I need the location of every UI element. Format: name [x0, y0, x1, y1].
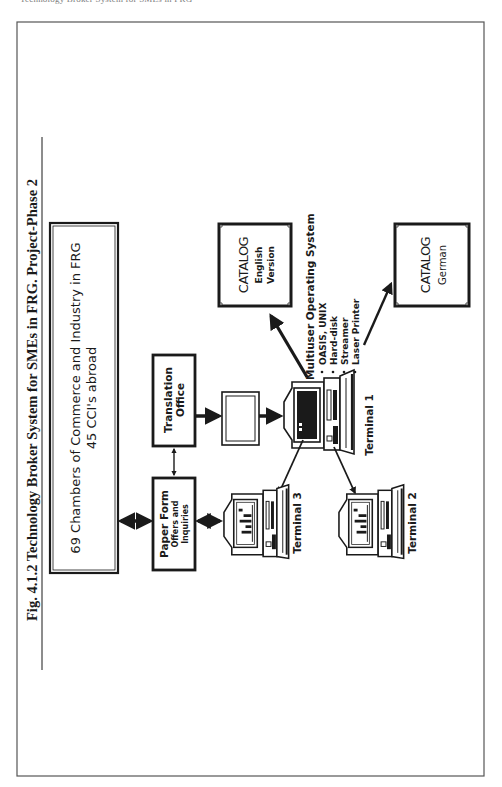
monitor-box — [222, 392, 259, 445]
computer-icon — [224, 485, 289, 559]
link-terminal1-terminal3 — [279, 440, 303, 493]
system-spec: Multiuser Operating System OASIS, UNIX H… — [304, 213, 361, 380]
catalog-english-line2: English — [254, 247, 264, 284]
bullet-icon — [343, 371, 346, 374]
paper-form-line2: Offers and — [171, 500, 180, 547]
bullet-icon — [332, 371, 335, 374]
catalog-german-box: CATALOG German — [395, 224, 469, 306]
terminal-3: Terminal 3 — [224, 485, 303, 559]
arrow-terminal1-catalog-english — [271, 316, 307, 377]
translation-line2: Office — [174, 383, 186, 417]
terminal-3-label: Terminal 3 — [291, 492, 303, 554]
terminal-2: Terminal 2 — [339, 485, 418, 559]
translation-line1: Translation — [162, 367, 174, 433]
translation-office-box: Translation Office — [153, 355, 195, 446]
computer-icon — [339, 485, 404, 559]
figure-title: Fig. 4.1.2 Technology Broker System for … — [24, 179, 40, 621]
catalog-german-title: CATALOG — [418, 237, 433, 293]
system-spec-item-2: Hard-disk — [329, 315, 339, 365]
terminal-1: Terminal 1 — [284, 370, 375, 456]
arrow-terminal1-catalog-german — [364, 284, 391, 345]
bullet-icon — [321, 371, 324, 374]
bullet-icon — [354, 371, 357, 374]
paper-form-box: Paper Form Offers and Inquiries — [153, 478, 195, 570]
terminal-1-label: Terminal 1 — [363, 394, 375, 456]
chambers-line2: 45 CCI's abroad — [84, 347, 99, 450]
system-spec-item-4: Laser Printer — [351, 298, 361, 365]
system-spec-heading: Multiuser Operating System — [304, 213, 316, 380]
paper-form-line1: Paper Form — [158, 490, 170, 558]
catalog-english-title: CATALOG — [236, 237, 251, 293]
chambers-box: 69 Chambers of Commerce and Industry in … — [50, 223, 118, 573]
chambers-line1: 69 Chambers of Commerce and Industry in … — [68, 242, 83, 553]
terminal-2-label: Terminal 2 — [406, 492, 418, 554]
system-spec-item-1: OASIS, UNIX — [318, 303, 328, 365]
figure-diagram: Fig. 4.1.2 Technology Broker System for … — [0, 0, 502, 787]
computer-icon — [284, 370, 354, 454]
catalog-english-line3: Version — [266, 246, 276, 284]
catalog-german-line2: German — [437, 245, 448, 285]
paper-form-line3: Inquiries — [181, 504, 190, 544]
system-spec-item-3: Streamer — [340, 317, 350, 365]
catalog-english-box: CATALOG English Version — [219, 224, 291, 306]
